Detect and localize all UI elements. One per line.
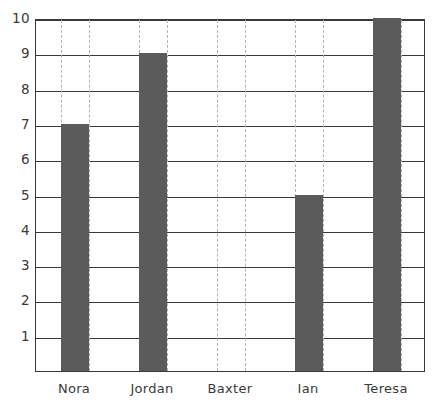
x-axis: NoraJordanBaxterIanTeresa bbox=[0, 382, 445, 402]
y-axis-tick-label: 9 bbox=[0, 48, 30, 62]
x-axis-tick-label: Teresa bbox=[364, 382, 407, 395]
bar[interactable] bbox=[61, 124, 89, 371]
gridline-horizontal bbox=[36, 197, 424, 198]
gridline-horizontal bbox=[36, 126, 424, 127]
gridline-vertical bbox=[217, 20, 218, 371]
gridline-horizontal bbox=[36, 338, 424, 339]
y-axis-tick-label: 1 bbox=[0, 330, 30, 344]
y-axis-tick-label: 2 bbox=[0, 295, 30, 309]
y-axis-tick-label: 4 bbox=[0, 224, 30, 238]
gridline-vertical bbox=[401, 20, 402, 371]
gridline-vertical bbox=[323, 20, 324, 371]
y-axis-tick-label: 5 bbox=[0, 189, 30, 203]
gridline-vertical bbox=[245, 20, 246, 371]
gridline-horizontal bbox=[36, 20, 424, 21]
x-axis-tick-label: Nora bbox=[58, 382, 90, 395]
gridline-horizontal bbox=[36, 55, 424, 56]
x-axis-tick-label: Baxter bbox=[208, 382, 253, 395]
gridline-vertical bbox=[167, 20, 168, 371]
bar-chart: 12345678910 NoraJordanBaxterIanTeresa bbox=[0, 0, 445, 419]
gridline-horizontal bbox=[36, 302, 424, 303]
gridline-vertical bbox=[89, 20, 90, 371]
plot-area bbox=[35, 19, 425, 372]
x-axis-tick-label: Ian bbox=[298, 382, 319, 395]
y-axis-tick-label: 8 bbox=[0, 83, 30, 97]
y-axis: 12345678910 bbox=[0, 19, 30, 372]
bar[interactable] bbox=[139, 53, 167, 371]
gridline-horizontal bbox=[36, 267, 424, 268]
bar[interactable] bbox=[373, 18, 401, 371]
gridline-horizontal bbox=[36, 91, 424, 92]
y-axis-tick-label: 6 bbox=[0, 153, 30, 167]
y-axis-tick-label: 7 bbox=[0, 118, 30, 132]
gridline-horizontal bbox=[36, 161, 424, 162]
gridline-horizontal bbox=[36, 232, 424, 233]
bar[interactable] bbox=[295, 195, 323, 372]
y-axis-tick-label: 10 bbox=[0, 12, 30, 26]
x-axis-tick-label: Jordan bbox=[130, 382, 173, 395]
y-axis-tick-label: 3 bbox=[0, 259, 30, 273]
